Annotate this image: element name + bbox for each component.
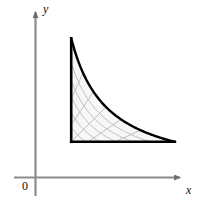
math-figure: y x 0 xyxy=(0,0,204,210)
grid-curve-ray xyxy=(36,39,205,178)
grid-curve-hyperbola xyxy=(44,21,204,171)
grid-curve-hyperbola xyxy=(44,0,204,169)
grid-curve-ray xyxy=(36,0,205,178)
figure-canvas xyxy=(0,0,204,210)
origin-label: 0 xyxy=(22,180,28,192)
grid-curve-ray xyxy=(36,0,205,178)
y-axis-label: y xyxy=(43,3,48,15)
grid-hyperbola-family xyxy=(44,0,204,171)
x-axis-label: x xyxy=(186,184,191,196)
grid-ray-family xyxy=(36,0,205,178)
grid-curve-ray xyxy=(36,0,205,178)
grid-curve-ray xyxy=(36,0,205,178)
